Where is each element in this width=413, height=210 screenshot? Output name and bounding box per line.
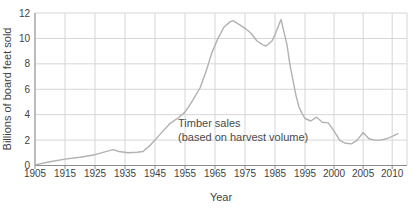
y-tick-label: 10 [19, 33, 31, 44]
series-annotation-line1: Timber sales [178, 117, 241, 129]
x-tick-label: 1925 [84, 168, 107, 179]
y-tick-label: 6 [24, 84, 30, 95]
y-tick-label: 2 [24, 135, 30, 146]
x-tick-label: 1945 [144, 168, 167, 179]
x-tick-label: 1955 [174, 168, 197, 179]
y-axis-title: Billions of board feet sold [1, 28, 13, 151]
x-tick-label: 1975 [234, 168, 257, 179]
x-tick-label: 1985 [264, 168, 287, 179]
timber-sales-series-line [35, 19, 398, 165]
x-tick-labels: 1905191519251935194519551965197519851995… [24, 168, 404, 179]
series-annotation-line2: (based on harvest volume) [178, 131, 308, 143]
x-tick-label: 2010 [381, 168, 404, 179]
x-tick-label: 1965 [204, 168, 227, 179]
y-tick-label: 0 [24, 160, 30, 171]
data-series-line [35, 19, 398, 165]
timber-sales-chart: 1905191519251935194519551965197519851995… [0, 0, 413, 210]
x-tick-label: 1915 [54, 168, 77, 179]
y-tick-label: 8 [24, 58, 30, 69]
timber-sales-line-chart-canvas: 1905191519251935194519551965197519851995… [0, 0, 413, 210]
x-tick-label: 2000 [323, 168, 346, 179]
x-axis-title: Year [210, 191, 233, 203]
y-tick-label: 12 [19, 8, 31, 19]
x-tick-label: 1995 [294, 168, 317, 179]
axes [35, 13, 407, 169]
y-tick-label: 4 [24, 109, 30, 120]
x-tick-label: 1935 [114, 168, 137, 179]
x-tick-label: 2005 [352, 168, 375, 179]
y-tick-labels: 024681012 [19, 8, 31, 172]
